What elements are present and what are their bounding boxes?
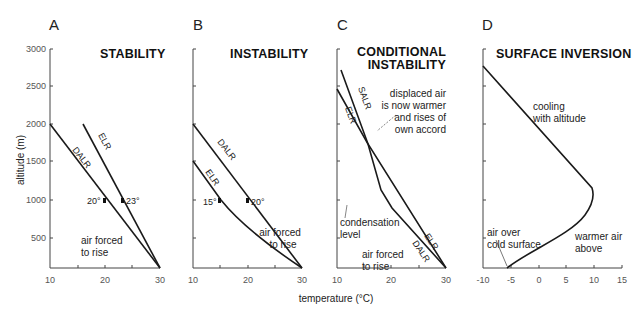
- panel-a-point-label-20: 20°: [87, 196, 101, 206]
- panel-d-x-tick-5: 5: [563, 275, 568, 285]
- panel-c-x-tick-30: 30: [441, 275, 451, 285]
- panel-d-x-tick-15: 15: [617, 275, 627, 285]
- y-axis-label: altitude (m): [15, 135, 26, 185]
- panel-d-cold-line1: air over: [487, 227, 521, 238]
- y-tick-500: 500: [31, 233, 46, 243]
- panel-d-cold-line2: cold surface: [487, 239, 541, 250]
- panel-c-leader-displaced: [377, 115, 396, 131]
- panel-c-displaced-line4: own accord: [395, 124, 446, 135]
- panel-c-displaced-line3: and rises of: [394, 112, 446, 123]
- panel-d-cooling-line2: with altitude: [532, 113, 586, 124]
- panel-d: D SURFACE INVERSION -10 -5 0 5 10 15 coo…: [476, 16, 631, 285]
- panel-b-point-label-15: 15°: [203, 197, 217, 207]
- panel-a-elr-label: ELR: [96, 131, 113, 152]
- panel-d-letter: D: [482, 16, 493, 33]
- panel-c-letter: C: [337, 16, 348, 33]
- panel-b-point-label-20: 20°: [251, 197, 265, 207]
- panel-a: A STABILITY 3000 2500 2000 1500 1000 500…: [15, 16, 166, 285]
- y-tick-3000: 3000: [26, 44, 46, 54]
- y-tick-1500: 1500: [26, 156, 46, 166]
- panel-c-condensation-line1: condensation: [340, 217, 400, 228]
- panel-b-annotation-line2: to rise: [269, 239, 297, 250]
- panel-a-x-tick-30: 30: [155, 275, 165, 285]
- panel-c-x-tick-20: 20: [386, 275, 396, 285]
- figure-canvas: A STABILITY 3000 2500 2000 1500 1000 500…: [0, 0, 634, 315]
- panel-b-elr-label: ELR: [203, 167, 222, 187]
- panel-b-point-20: [246, 198, 249, 203]
- panel-b-x-tick-10: 10: [188, 275, 198, 285]
- panel-d-x-tick-minus5: -5: [507, 275, 515, 285]
- panel-b-annotation-line1: air forced: [259, 227, 301, 238]
- panel-a-point-20: [103, 198, 106, 203]
- panel-d-cooling-line1: cooling: [533, 101, 565, 112]
- panel-d-warmer-line1: warmer air: [574, 231, 623, 242]
- panel-b-point-15: [218, 198, 221, 203]
- panel-b-letter: B: [193, 16, 203, 33]
- panel-d-x-tick-10: 10: [589, 275, 599, 285]
- panel-a-letter: A: [49, 16, 59, 33]
- panel-c-title-line2: INSTABILITY: [368, 58, 447, 72]
- panel-c-x-tick-10: 10: [332, 275, 342, 285]
- y-tick-2500: 2500: [26, 81, 46, 91]
- panel-c-displaced-line1: displaced air: [390, 88, 447, 99]
- y-tick-2000: 2000: [26, 119, 46, 129]
- panel-b-x-tick-20: 20: [243, 275, 253, 285]
- y-tick-1000: 1000: [26, 195, 46, 205]
- panel-c-forced-line1: air forced: [362, 249, 404, 260]
- x-axis-label: temperature (°C): [299, 293, 374, 304]
- panel-d-title: SURFACE INVERSION: [496, 47, 631, 61]
- panel-a-point-label-23: 23°: [126, 196, 140, 206]
- panel-a-point-23: [121, 198, 124, 203]
- panel-c-title-line1: CONDITIONAL: [357, 45, 446, 59]
- panel-d-x-tick-minus10: -10: [476, 275, 489, 285]
- panel-c-salr-label: SALR: [356, 85, 374, 111]
- panel-b-x-tick-30: 30: [297, 275, 307, 285]
- panel-a-annotation-line2: to rise: [81, 247, 109, 258]
- panel-a-x-tick-20: 20: [100, 275, 110, 285]
- panel-d-x-tick-0: 0: [536, 275, 541, 285]
- panel-b-title: INSTABILITY: [230, 47, 309, 61]
- panel-c-condensation-line2: level: [340, 229, 361, 240]
- panel-a-title: STABILITY: [100, 47, 166, 61]
- panel-a-x-tick-10: 10: [45, 275, 55, 285]
- panel-a-annotation-line1: air forced: [81, 235, 123, 246]
- panel-d-warmer-line2: above: [575, 243, 603, 254]
- panel-c-displaced-line2: is now warmer: [382, 100, 447, 111]
- panel-c-forced-line2: to rise: [362, 261, 390, 272]
- panel-c: C CONDITIONAL INSTABILITY 10 20 30 ELR D…: [299, 16, 451, 304]
- panel-b: B INSTABILITY 10 20 30 DALR ELR 15° 20° …: [188, 16, 309, 285]
